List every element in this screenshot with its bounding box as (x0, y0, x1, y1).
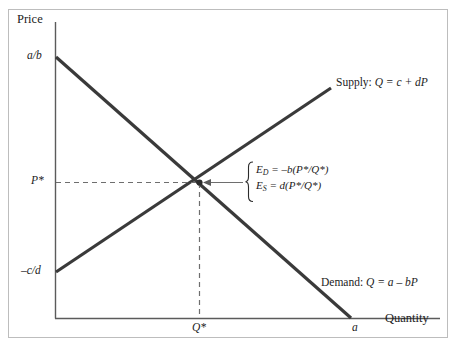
plot-canvas (0, 0, 457, 350)
supply-curve-label: Supply: Q = c + dP (336, 77, 428, 89)
x-tick-label-demand-intercept: a (352, 322, 358, 334)
supply-curve-label-prefix: Supply: (336, 76, 375, 88)
elasticity-equations: ED = –b(P*/Q*) ES = d(P*/Q*) (256, 162, 328, 195)
supply-curve-equation: Q = c + dP (375, 76, 428, 88)
demand-elasticity-equation: ED = –b(P*/Q*) (256, 162, 328, 178)
supply-elasticity-expression: = d(P*/Q*) (267, 179, 321, 191)
demand-curve-label-prefix: Demand: (321, 276, 366, 288)
demand-elasticity-expression: = –b(P*/Q*) (268, 163, 328, 175)
demand-curve-label: Demand: Q = a – bP (321, 277, 418, 289)
y-tick-label-equilibrium-price: P* (31, 175, 44, 187)
supply-elasticity-symbol: E (256, 179, 263, 191)
elasticity-pointer-arrowhead (203, 179, 211, 186)
y-axis-title: Price (17, 13, 43, 26)
equilibrium-point-marker (196, 179, 202, 185)
supply-demand-figure: Price Quantity a/b P* –c/d Q* a Supply: … (0, 0, 457, 350)
x-tick-label-equilibrium-quantity: Q* (192, 322, 206, 334)
y-tick-label-supply-intercept: –c/d (21, 265, 41, 277)
demand-curve-equation: Q = a – bP (366, 276, 418, 288)
y-tick-label-demand-intercept: a/b (27, 50, 42, 62)
elasticity-brace (246, 162, 254, 202)
x-axis-title: Quantity (385, 312, 429, 325)
demand-elasticity-symbol: E (256, 163, 263, 175)
supply-elasticity-equation: ES = d(P*/Q*) (256, 178, 328, 194)
